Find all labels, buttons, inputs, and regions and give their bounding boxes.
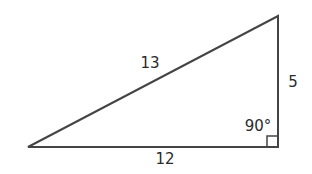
right-angle-marker	[267, 136, 278, 147]
right-triangle	[28, 16, 278, 147]
hypotenuse-label: 13	[140, 54, 159, 72]
triangle-diagram: 13 5 12 90°	[0, 0, 312, 174]
right-angle-label: 90°	[245, 117, 272, 135]
vertical-leg-label: 5	[288, 73, 298, 91]
horizontal-leg-label: 12	[155, 150, 174, 168]
